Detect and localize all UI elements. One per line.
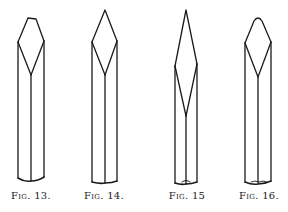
caption-number: 15 [192,190,205,201]
caption-fig-16: Fig. 16. [239,190,279,201]
caption-number: 16. [262,190,279,201]
figure-plate [0,0,288,212]
caption-number: 13. [34,190,51,201]
caption-prefix: Fig. [84,190,104,201]
caption-prefix: Fig. [239,190,259,201]
caption-fig-14: Fig. 14. [84,190,124,201]
caption-fig-13: Fig. 13. [11,190,51,201]
caption-number: 14. [107,190,124,201]
caption-prefix: Fig. [169,190,189,201]
crystal-fig-16 [245,18,271,184]
caption-fig-15: Fig. 15 [169,190,206,201]
crystal-fig-14 [92,10,117,183]
caption-prefix: Fig. [11,190,31,201]
crystal-fig-15 [175,10,197,184]
crystal-fig-13 [18,18,44,181]
